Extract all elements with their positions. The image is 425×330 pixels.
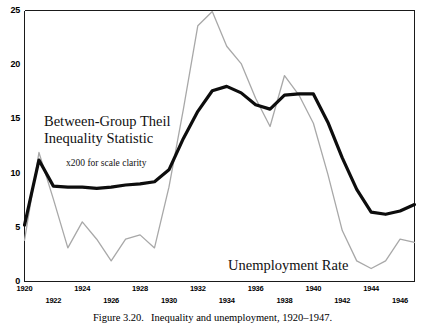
figure-number: Figure 3.20. <box>93 312 144 323</box>
x-axis-tick-1944: 1944 <box>354 284 388 293</box>
x-axis-tick-1934: 1934 <box>210 296 244 305</box>
x-axis-tick-1938: 1938 <box>268 296 302 305</box>
x-axis-tick-1920: 1920 <box>8 284 42 293</box>
y-axis-tick-20: 20 <box>0 59 20 69</box>
theil-series-label-line1: Between-Group Theil <box>44 113 171 130</box>
scale-note-label: x200 for scale clarity <box>66 158 146 168</box>
x-axis-tick-1928: 1928 <box>123 284 157 293</box>
x-axis-tick-1932: 1932 <box>181 284 215 293</box>
unemployment-series-label: Unemployment Rate <box>228 257 348 274</box>
x-axis-tick-1936: 1936 <box>239 284 273 293</box>
x-axis-tick-1946: 1946 <box>383 296 417 305</box>
x-axis-tick-1930: 1930 <box>152 296 186 305</box>
x-axis-tick-1924: 1924 <box>65 284 99 293</box>
figure-caption: Figure 3.20.Inequality and unemployment,… <box>0 312 425 323</box>
x-axis-tick-1922: 1922 <box>36 296 70 305</box>
y-axis-tick-5: 5 <box>0 222 20 232</box>
chart-plot-area <box>0 0 425 330</box>
figure-caption-text: Inequality and unemployment, 1920–1947. <box>151 312 332 323</box>
x-axis-tick-1940: 1940 <box>296 284 330 293</box>
chart-background <box>0 0 425 330</box>
theil-series-label: Between-Group Theil Inequality Statistic <box>44 113 171 147</box>
x-axis-tick-1926: 1926 <box>94 296 128 305</box>
y-axis-tick-15: 15 <box>0 113 20 123</box>
figure-container: 2520151050 19201922192419261928193019321… <box>0 0 425 330</box>
y-axis-tick-10: 10 <box>0 168 20 178</box>
y-axis-tick-25: 25 <box>0 5 20 15</box>
x-axis-tick-1942: 1942 <box>325 296 359 305</box>
theil-series-label-line2: Inequality Statistic <box>44 130 171 147</box>
